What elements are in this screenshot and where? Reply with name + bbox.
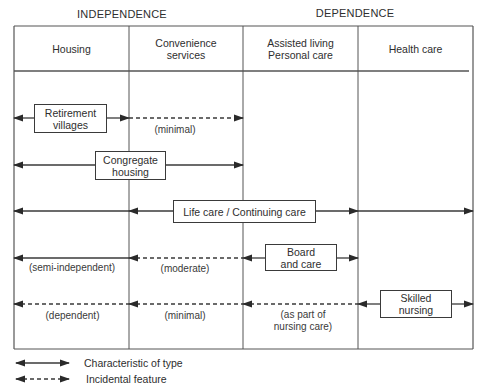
box-congregate-housing: Congregate housing (95, 151, 166, 180)
note-as-part-of-nursing-care: (as part of nursing care) (258, 309, 348, 333)
diagram-canvas: INDEPENDENCE DEPENDENCE Housing Convenie… (0, 0, 482, 392)
legend-label-characteristic: Characteristic of type (84, 357, 183, 369)
column-header-convenience-services: Convenience services (129, 27, 243, 71)
group-title-dependence: DEPENDENCE (290, 7, 420, 19)
note-moderate: (moderate) (150, 263, 220, 275)
note-minimal-nursing: (minimal) (150, 310, 220, 322)
box-board-and-care: Board and care (265, 244, 337, 271)
box-life-care: Life care / Continuing care (173, 200, 316, 223)
box-retirement-villages: Retirement villages (34, 104, 107, 133)
column-header-health-care: Health care (358, 27, 473, 71)
note-minimal-retirement: (minimal) (140, 124, 210, 136)
legend-label-incidental: Incidental feature (86, 373, 167, 385)
note-semi-independent: (semi-independent) (18, 262, 126, 274)
note-dependent: (dependent) (30, 310, 115, 322)
column-header-assisted-living: Assisted living Personal care (243, 27, 358, 71)
legend-arrows (16, 363, 69, 379)
group-title-independence: INDEPENDENCE (57, 8, 187, 20)
column-header-housing: Housing (14, 27, 129, 71)
box-skilled-nursing: Skilled nursing (380, 290, 452, 318)
